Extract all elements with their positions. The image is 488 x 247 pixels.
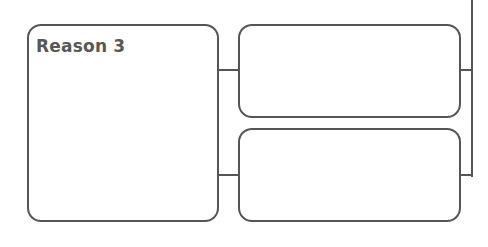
- connector-left-bottom: [219, 174, 239, 176]
- reason-box: Reason 3: [27, 24, 219, 222]
- detail-box-top: [238, 24, 461, 118]
- reason-title: Reason 3: [36, 36, 125, 56]
- connector-left-top: [219, 69, 239, 71]
- connector-right-bottom: [460, 174, 473, 176]
- detail-box-bottom: [238, 128, 461, 222]
- connector-right-top: [460, 69, 473, 71]
- bracket-vertical-line: [471, 0, 473, 177]
